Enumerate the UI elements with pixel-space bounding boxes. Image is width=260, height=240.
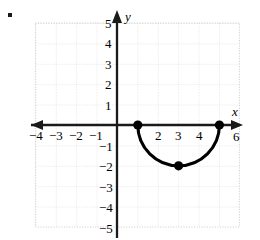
y-axis-label: y [125, 10, 131, 23]
y-tick-label-neg1: −1 [99, 140, 113, 153]
coordinate-plane-graph [0, 0, 260, 240]
y-tick-label-neg5: −5 [99, 222, 113, 235]
x-tick-label-6: 6 [233, 130, 240, 143]
point-right-endpoint [215, 120, 224, 129]
x-axis-label: x [232, 105, 238, 118]
x-tick-label-2: 2 [155, 129, 162, 142]
x-tick-label-4: 4 [196, 129, 203, 142]
x-tick-label-3: 3 [175, 129, 182, 142]
y-tick-label-neg3: −3 [99, 181, 113, 194]
y-tick-label-4: 4 [105, 37, 112, 50]
x-tick-label-neg2: −2 [69, 129, 83, 142]
point-left-endpoint [133, 120, 142, 129]
y-tick-label-neg4: −4 [99, 201, 113, 214]
point-vertex [174, 161, 183, 170]
graph-screenshot: y x −4 −3 −2 −1 2 3 4 6 1 2 3 4 5 −1 −2 … [0, 0, 260, 240]
y-tick-label-5: 5 [105, 17, 112, 30]
y-tick-label-2: 2 [105, 78, 112, 91]
y-tick-label-1: 1 [105, 99, 112, 112]
y-tick-label-3: 3 [105, 58, 112, 71]
x-tick-label-neg4: −4 [29, 129, 43, 142]
y-tick-label-neg2: −2 [99, 160, 113, 173]
x-tick-label-neg3: −3 [49, 129, 63, 142]
